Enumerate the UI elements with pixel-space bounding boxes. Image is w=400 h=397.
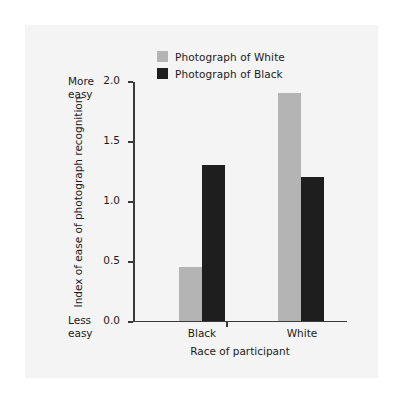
x-axis-line [133,321,347,323]
bar-black-photograph-of-black [202,165,225,321]
bar-white-photograph-of-black [301,177,324,321]
y-axis-tick: 0.5 [128,261,133,263]
y-axis-title: Index of ease of photograph recognition [72,0,86,82]
y-axis-tick: 0.0 [128,321,133,323]
bar-white-photograph-of-white [278,93,301,321]
legend-label-photograph-of-white: Photograph of White [175,51,285,63]
x-axis-category-black: Black [167,327,237,339]
y-axis-bottom-annotation-line2: easy [68,327,116,340]
legend-swatch-white-photo [157,51,168,62]
y-axis-tick-label: 0.0 [103,314,120,326]
y-axis-tick: 2.0 [128,81,133,83]
y-axis-tick-label: 1.0 [103,194,120,206]
y-axis-title-text: Index of ease of photograph recognition [72,82,84,322]
y-axis-tick-label: 1.5 [103,134,120,146]
chart-legend: Photograph of White Photograph of Black [157,48,285,82]
legend-swatch-black-photo [157,68,168,79]
x-axis-title: Race of participant [133,345,347,357]
y-axis-tick-label: 2.0 [103,74,120,86]
chart-figure: Photograph of White Photograph of Black … [25,25,378,378]
y-axis-tick-label: 0.5 [103,254,120,266]
plot-area: 0.00.51.01.52.0 [133,82,322,322]
bar-black-photograph-of-white [179,267,202,321]
y-axis-tick: 1.0 [128,201,133,203]
x-axis-category-white: White [267,327,337,339]
legend-item-photograph-of-white: Photograph of White [157,48,285,65]
legend-item-photograph-of-black: Photograph of Black [157,65,285,82]
y-axis-line [133,82,135,322]
legend-label-photograph-of-black: Photograph of Black [175,68,283,80]
y-axis-tick: 1.5 [128,141,133,143]
